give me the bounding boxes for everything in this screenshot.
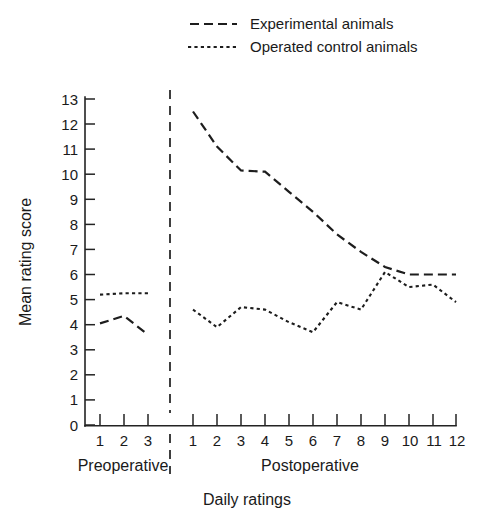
legend-item-operated-control: Operated control animals bbox=[188, 38, 418, 55]
phase-label-preoperative: Preoperative bbox=[78, 457, 169, 474]
y-tick-label-1: 1 bbox=[70, 391, 78, 408]
y-axis-ticks bbox=[85, 99, 95, 425]
x-tick-label-post-5: 5 bbox=[285, 432, 293, 449]
y-axis-tick-labels: 0 1 2 3 4 5 6 7 8 9 10 11 12 13 bbox=[61, 91, 78, 434]
phase-label-postoperative: Postoperative bbox=[261, 457, 359, 474]
x-axis-labels-preoperative: 1 2 3 bbox=[96, 432, 152, 449]
x-axis: 1 2 3 1 2 3 bbox=[78, 414, 466, 508]
legend-item-experimental: Experimental animals bbox=[190, 15, 393, 32]
y-tick-label-11: 11 bbox=[62, 141, 78, 158]
y-axis-title: Mean rating score bbox=[17, 198, 34, 326]
chart-figure: Experimental animals Operated control an… bbox=[0, 0, 495, 518]
x-tick-label-post-1: 1 bbox=[189, 432, 197, 449]
x-tick-label-post-9: 9 bbox=[381, 432, 389, 449]
series-experimental-preoperative bbox=[100, 316, 148, 335]
chart-legend: Experimental animals Operated control an… bbox=[188, 15, 418, 55]
y-tick-label-8: 8 bbox=[70, 216, 78, 233]
x-tick-label-post-10: 10 bbox=[402, 432, 419, 449]
y-tick-label-13: 13 bbox=[61, 91, 78, 108]
y-tick-label-9: 9 bbox=[70, 191, 78, 208]
x-tick-label-post-8: 8 bbox=[357, 432, 365, 449]
x-tick-label-post-12: 12 bbox=[449, 432, 466, 449]
x-tick-label-post-11: 11 bbox=[426, 432, 442, 449]
y-tick-label-2: 2 bbox=[70, 366, 78, 383]
x-tick-label-post-7: 7 bbox=[333, 432, 341, 449]
x-tick-label-pre-2: 2 bbox=[120, 432, 128, 449]
x-tick-label-post-6: 6 bbox=[309, 432, 317, 449]
x-axis-labels-postoperative: 1 2 3 4 5 6 7 8 9 10 11 12 bbox=[189, 432, 466, 449]
series-experimental-postoperative bbox=[193, 112, 456, 275]
y-tick-label-4: 4 bbox=[70, 316, 78, 333]
y-tick-label-10: 10 bbox=[61, 166, 78, 183]
x-tick-label-pre-1: 1 bbox=[96, 432, 104, 449]
y-tick-label-6: 6 bbox=[70, 266, 78, 283]
series-operated-control-postoperative bbox=[193, 272, 456, 332]
x-tick-label-pre-3: 3 bbox=[144, 432, 152, 449]
x-tick-label-post-4: 4 bbox=[261, 432, 269, 449]
x-axis-ticks-preoperative bbox=[100, 414, 148, 426]
x-tick-label-post-3: 3 bbox=[237, 432, 245, 449]
y-tick-label-0: 0 bbox=[70, 417, 78, 434]
y-tick-label-7: 7 bbox=[70, 241, 78, 258]
legend-label-operated-control: Operated control animals bbox=[250, 38, 418, 55]
x-axis-ticks-postoperative bbox=[193, 414, 456, 426]
line-chart-svg: Experimental animals Operated control an… bbox=[0, 0, 495, 518]
y-tick-label-3: 3 bbox=[70, 341, 78, 358]
series-operated-control-preoperative bbox=[100, 293, 148, 294]
y-tick-label-12: 12 bbox=[61, 116, 78, 133]
x-tick-label-post-2: 2 bbox=[213, 432, 221, 449]
legend-label-experimental: Experimental animals bbox=[250, 15, 393, 32]
y-axis: 0 1 2 3 4 5 6 7 8 9 10 11 12 13 Mean rat… bbox=[17, 91, 95, 434]
y-tick-label-5: 5 bbox=[70, 291, 78, 308]
x-axis-title: Daily ratings bbox=[203, 491, 291, 508]
